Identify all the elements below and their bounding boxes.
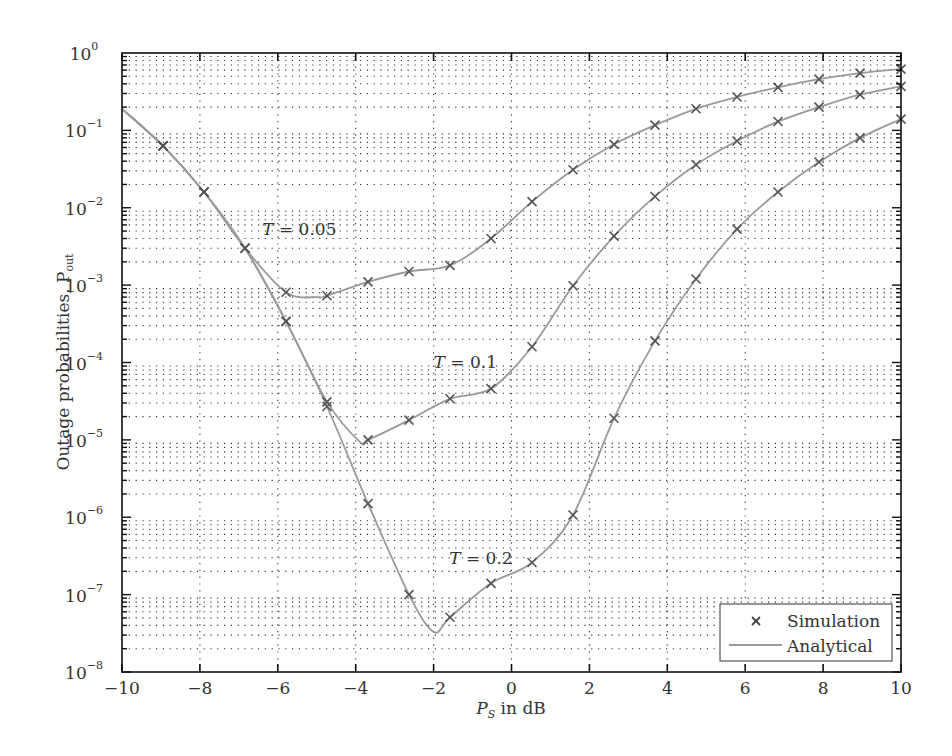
x-tick-label: 10 xyxy=(890,678,912,698)
simulation-marker-icon xyxy=(815,158,824,167)
outage-probability-chart: −10−8−6−4−20246810 10010−110−210−310−410… xyxy=(0,0,952,756)
y-tick-label: 10−1 xyxy=(65,117,103,141)
simulation-marker-icon xyxy=(569,510,578,519)
x-axis-title: PS in dB xyxy=(475,698,546,721)
simulation-marker-icon xyxy=(650,121,659,130)
x-tick-label: 0 xyxy=(506,678,517,698)
x-tick-label: −10 xyxy=(104,678,140,698)
plot-frame xyxy=(122,53,901,672)
x-tick-label: 4 xyxy=(662,678,673,698)
analytical-curve xyxy=(122,86,901,444)
simulation-marker-icon xyxy=(610,232,619,241)
simulation-marker-icon xyxy=(487,234,496,243)
simulation-marker-icon xyxy=(241,244,250,253)
simulation-marker-icon xyxy=(527,342,536,351)
y-tick-label: 10−7 xyxy=(65,582,103,606)
simulation-marker-icon xyxy=(732,136,741,145)
x-axis-tick-labels: −10−8−6−4−20246810 xyxy=(104,678,912,698)
legend-label-simulation: Simulation xyxy=(787,611,880,631)
y-tick-label: 100 xyxy=(70,40,99,64)
simulation-marker-icon xyxy=(610,140,619,149)
x-tick-label: 8 xyxy=(818,678,829,698)
y-tick-label: 10−6 xyxy=(65,504,103,528)
simulation-marker-icon xyxy=(487,384,496,393)
simulation-marker-icon xyxy=(610,414,619,423)
simulation-marker-icon xyxy=(650,336,659,345)
x-tick-label: −2 xyxy=(421,678,446,698)
curve-label: T = 0.1 xyxy=(434,352,497,372)
simulation-marker-icon xyxy=(569,281,578,290)
simulation-marker-icon xyxy=(282,317,291,326)
simulation-marker-icon xyxy=(732,225,741,234)
simulation-marker-icon xyxy=(650,192,659,201)
simulation-marker-icon xyxy=(569,165,578,174)
x-tick-label: −6 xyxy=(265,678,290,698)
simulation-marker-icon xyxy=(445,613,454,622)
simulation-marker-icon xyxy=(364,499,373,508)
simulation-marker-icon xyxy=(487,579,496,588)
simulation-marker-icon xyxy=(773,187,782,196)
y-axis-title: Outage probabilities, Pout xyxy=(53,253,76,471)
simulation-marker-icon xyxy=(692,274,701,283)
simulation-markers xyxy=(159,65,906,622)
simulation-marker-icon xyxy=(199,187,208,196)
simulation-marker-icon xyxy=(445,261,454,270)
simulation-marker-icon xyxy=(527,197,536,206)
x-tick-label: 6 xyxy=(740,678,751,698)
simulation-marker-icon xyxy=(527,558,536,567)
x-tick-label: 2 xyxy=(584,678,595,698)
simulation-marker-icon xyxy=(404,416,413,425)
x-tick-label: −4 xyxy=(343,678,368,698)
simulation-marker-icon xyxy=(692,104,701,113)
simulation-marker-icon xyxy=(364,435,373,444)
y-tick-label: 10−8 xyxy=(65,659,103,683)
y-tick-label: 10−2 xyxy=(65,195,103,219)
axis-ticks xyxy=(122,53,901,672)
grid-lines xyxy=(122,53,901,672)
curve-label: T = 0.2 xyxy=(449,548,512,568)
simulation-marker-icon xyxy=(692,160,701,169)
simulation-marker-icon xyxy=(773,117,782,126)
simulation-marker-icon xyxy=(364,277,373,286)
legend: Simulation Analytical xyxy=(720,604,892,661)
simulation-marker-icon xyxy=(404,590,413,599)
simulation-marker-icon xyxy=(445,394,454,403)
curve-label: T = 0.05 xyxy=(262,219,336,239)
legend-label-analytical: Analytical xyxy=(786,636,873,656)
x-tick-label: −8 xyxy=(187,678,212,698)
